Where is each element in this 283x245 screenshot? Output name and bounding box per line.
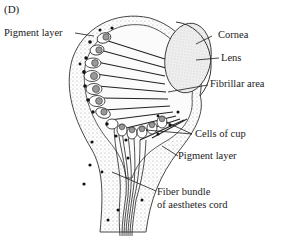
label-pigment-layer-top: Pigment layer: [4, 27, 63, 39]
label-fiber-bundle-line2: of aesthetes cord: [157, 199, 228, 211]
label-fibrillar-area: Fibrillar area: [210, 78, 265, 90]
label-pigment-layer-bottom: Pigment layer: [178, 150, 237, 162]
diagram-figure: (D) Pigment layer Cornea Lens Fibrillar …: [0, 0, 283, 245]
label-cornea: Cornea: [218, 29, 248, 41]
panel-label: (D): [4, 3, 19, 15]
label-cells-of-cup: Cells of cup: [195, 128, 246, 140]
label-lens: Lens: [221, 52, 241, 64]
label-fiber-bundle-line1: Fiber bundle: [157, 186, 210, 198]
